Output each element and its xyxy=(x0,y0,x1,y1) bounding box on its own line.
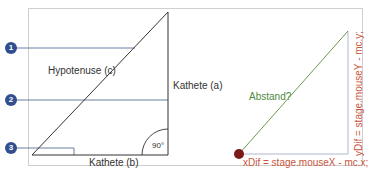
kathete-b-label: Kathete (b) xyxy=(89,158,138,168)
marker-3: 3 xyxy=(5,142,17,154)
distance-label: Abstand? xyxy=(249,92,291,102)
y-formula-label: yDif = stage.mouseY - mc.y; xyxy=(354,31,364,156)
hypotenuse-label: Hypotenuse (c) xyxy=(48,66,116,76)
kathete-a-label: Kathete (a) xyxy=(173,81,222,91)
marker-2: 2 xyxy=(5,94,17,106)
diagram-canvas: 1 2 3 Hypotenuse (c) Kathete (a) Kathete… xyxy=(0,0,377,180)
right-triangle xyxy=(32,12,168,155)
marker-1: 1 xyxy=(5,42,17,54)
right-angle-label: 90° xyxy=(152,142,164,150)
x-formula-label: xDif = stage.mouseX - mc.x; xyxy=(243,158,368,168)
